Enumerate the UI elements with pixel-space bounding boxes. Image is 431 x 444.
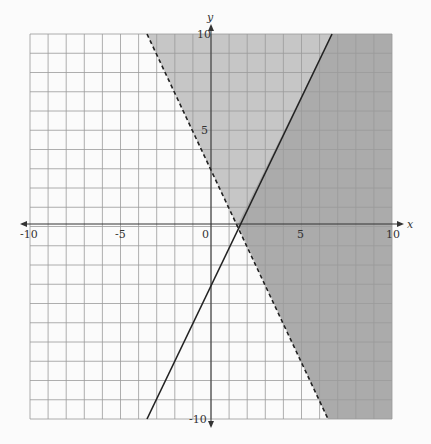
x-tick-label: -10 bbox=[20, 228, 38, 241]
x-axis-right-arrow-icon bbox=[397, 221, 404, 227]
x-axis-label: x bbox=[407, 218, 414, 231]
y-tick-label: 5 bbox=[201, 124, 208, 137]
x-tick-label: 5 bbox=[297, 228, 304, 241]
x-tick-label: -5 bbox=[115, 228, 126, 241]
origin-label: 0 bbox=[202, 228, 209, 241]
inequality-graph: x y -10 -5 0 5 10 10 5 -10 bbox=[0, 0, 431, 444]
x-tick-label: 10 bbox=[386, 228, 400, 241]
y-axis-label: y bbox=[206, 11, 214, 24]
y-tick-label: -10 bbox=[189, 413, 207, 426]
x-axis-left-arrow-icon bbox=[20, 221, 27, 227]
y-axis-down-arrow-icon bbox=[208, 421, 214, 428]
y-tick-label: 10 bbox=[197, 28, 211, 41]
